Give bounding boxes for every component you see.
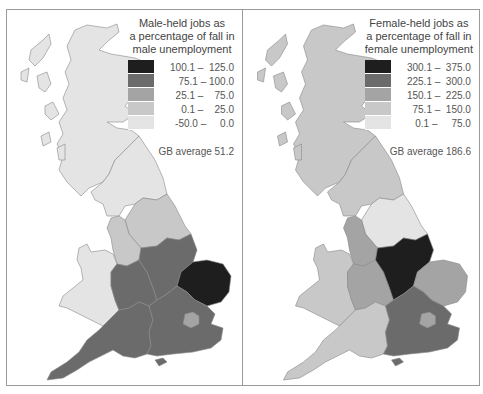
legend-range: 150.1 – 225.0 (391, 89, 473, 102)
legend-range: 25.1 – 75.0 (154, 89, 236, 102)
legend-range: 225.1 – 300.0 (391, 75, 473, 88)
female-map-panel: Female-held jobs as a percentage of fall… (242, 9, 480, 386)
region-wales (59, 244, 119, 326)
legend-range: 0.1 – 75.0 (391, 117, 473, 130)
legend-swatch (365, 88, 391, 102)
legend-row: 75.1 – 100.0 (128, 74, 236, 88)
legend-row: -50.0 – 0.0 (128, 116, 236, 130)
legend-swatch (365, 102, 391, 116)
gb-average-label: GB average 51.2 (128, 145, 236, 158)
male-legend: Male-held jobs as a percentage of fall i… (128, 17, 236, 158)
legend-swatch (128, 74, 154, 88)
legend-title-line: male unemployment (128, 43, 236, 56)
legend-swatch (365, 60, 391, 74)
legend-range: 75.1 – 100.0 (154, 75, 236, 88)
legend-title-line: Male-held jobs as (128, 17, 236, 30)
legend-row: 0.1 – 75.0 (365, 116, 473, 130)
legend-row: 25.1 – 75.0 (128, 88, 236, 102)
region-isle-of-wight (392, 358, 404, 366)
legend-row: 100.1 – 125.0 (128, 60, 236, 74)
legend-row: 75.1 – 150.0 (365, 102, 473, 116)
legend-row: 225.1 – 300.0 (365, 74, 473, 88)
legend-title-line: female unemployment (365, 43, 473, 56)
legend-title-line: a percentage of fall in (128, 30, 236, 43)
legend-title-line: Female-held jobs as (365, 17, 473, 30)
legend-swatch (365, 116, 391, 130)
legend-swatch (365, 74, 391, 88)
legend-row: 300.1 – 375.0 (365, 60, 473, 74)
legend-title-line: a percentage of fall in (365, 30, 473, 43)
region-wales (296, 244, 356, 326)
legend-swatch (128, 60, 154, 74)
legend-range: 0.1 – 25.0 (154, 103, 236, 116)
region-isle-of-wight (155, 358, 167, 366)
legend-swatch (128, 102, 154, 116)
legend-range: 100.1 – 125.0 (154, 61, 236, 74)
legend-range: 300.1 – 375.0 (391, 61, 473, 74)
legend-swatch (128, 116, 154, 130)
legend-row: 150.1 – 225.0 (365, 88, 473, 102)
legend-range: -50.0 – 0.0 (154, 117, 236, 130)
male-map-panel: Male-held jobs as a percentage of fall i… (6, 9, 243, 386)
legend-range: 75.1 – 150.0 (391, 103, 473, 116)
gb-average-label: GB average 186.6 (365, 145, 473, 158)
legend-row: 0.1 – 25.0 (128, 102, 236, 116)
female-legend: Female-held jobs as a percentage of fall… (365, 17, 473, 158)
legend-swatch (128, 88, 154, 102)
